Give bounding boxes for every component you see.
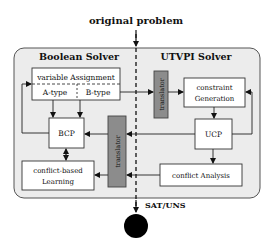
boolean-solver-heading: Boolean Solver — [39, 51, 120, 62]
constraint-label-line2: Generation — [195, 95, 235, 103]
translator-top-label: translator — [158, 77, 166, 111]
variable-assignment-box: variable Assignment A-type B-type — [32, 68, 120, 100]
terminal-node — [124, 214, 148, 238]
learning-label-line1: conflict-based — [33, 167, 83, 175]
constraint-label-line1: constraint — [196, 84, 232, 92]
translator-bottom-label: translator — [114, 134, 122, 168]
constraint-generation-box: constraint Generation — [184, 78, 245, 107]
learning-label-line2: Learning — [42, 178, 75, 186]
ucp-box: UCP — [195, 119, 232, 149]
diagram-canvas: original problem Boolean Solver UTVPI So… — [0, 0, 273, 252]
bcp-box: BCP — [49, 118, 84, 148]
translator-bottom-box: translator — [108, 116, 126, 187]
variable-assignment-label: variable Assignment — [36, 73, 115, 82]
conflict-analysis-box: conflict Analysis — [160, 164, 242, 186]
b-type-label: B-type — [86, 88, 111, 97]
conflict-analysis-label: conflict Analysis — [172, 172, 230, 180]
utvpi-solver-heading: UTVPI Solver — [161, 51, 233, 62]
translator-top-box: translator — [154, 71, 168, 118]
bcp-label: BCP — [58, 129, 74, 138]
a-type-label: A-type — [42, 88, 68, 97]
title-original-problem: original problem — [89, 15, 184, 26]
sat-uns-label: SAT/UNS — [145, 200, 186, 210]
ucp-label: UCP — [205, 130, 222, 139]
conflict-based-learning-box: conflict-based Learning — [22, 161, 94, 190]
